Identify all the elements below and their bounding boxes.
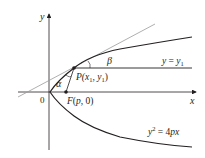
alpha-arc — [66, 75, 71, 77]
beta-label: β — [106, 55, 112, 66]
focus-label: F(p, 0) — [66, 96, 93, 107]
alpha-label: α — [56, 78, 62, 89]
x-axis-label: x — [189, 95, 195, 106]
point-p-label: P(x1, y1) — [75, 72, 108, 83]
beta-arc — [88, 61, 90, 68]
point-f — [64, 90, 68, 94]
curve-label: y2 = 4px — [147, 125, 180, 137]
y-axis-label: y — [39, 11, 45, 22]
line-label: y = y1 — [161, 56, 184, 67]
point-p — [72, 66, 76, 70]
parabola-reflection-diagram: y x 0 α β P(x1, y1) F(p, 0) y = y1 y2 = … — [0, 0, 205, 158]
origin-label: 0 — [40, 95, 45, 105]
